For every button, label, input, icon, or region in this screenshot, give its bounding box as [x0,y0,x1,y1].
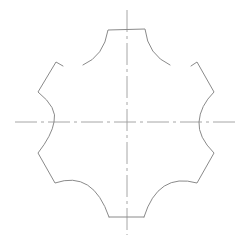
left-profile [38,62,109,217]
right-profile [144,62,214,217]
top-notch-profile [83,29,170,65]
drawing-canvas [0,0,252,239]
cad-drawing [0,0,252,239]
